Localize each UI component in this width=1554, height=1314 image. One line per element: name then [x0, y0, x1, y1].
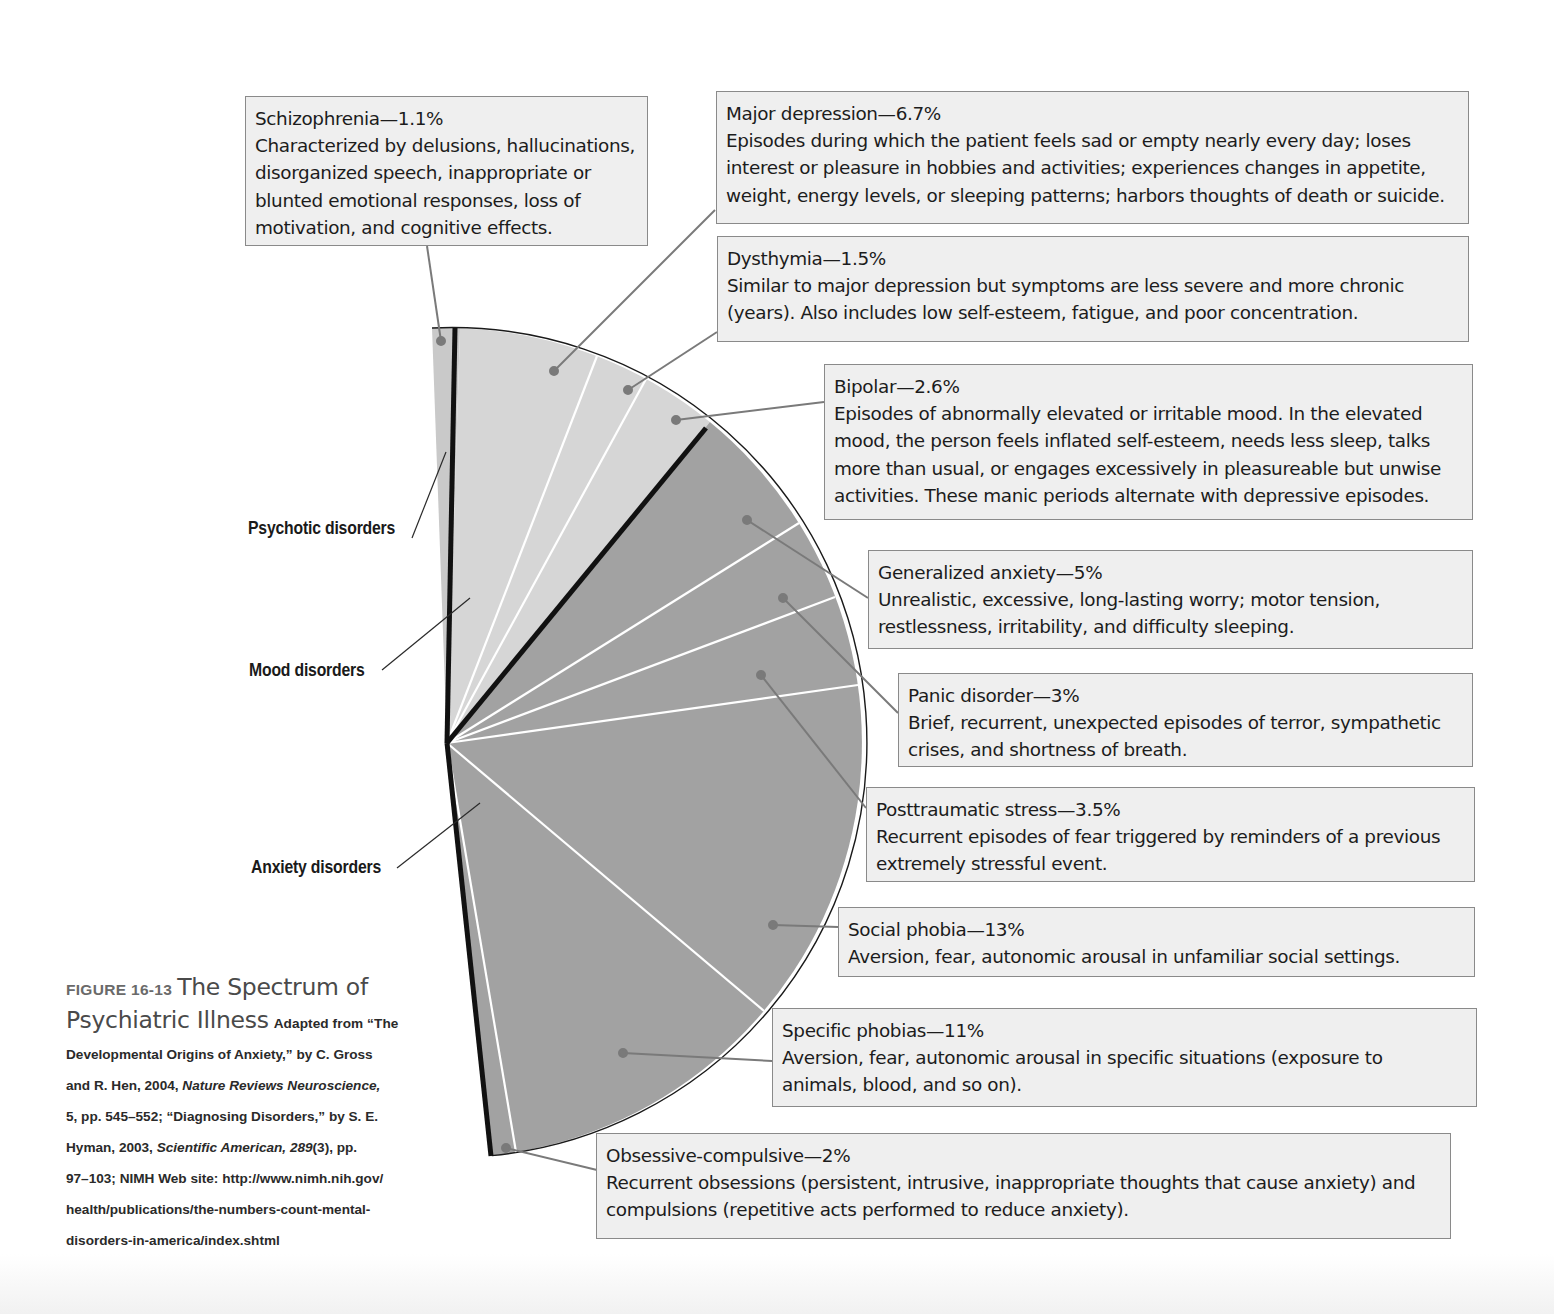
callout-description: Aversion, fear, autonomic arousal in unf… [848, 943, 1464, 970]
dot-generalized-anxiety [743, 516, 751, 524]
callout-title: Panic disorder—3% [908, 682, 1462, 709]
callout-specific-phobias: Specific phobias—11% Aversion, fear, aut… [772, 1008, 1477, 1107]
callout-description: Aversion, fear, autonomic arousal in spe… [782, 1044, 1466, 1098]
callout-title: Schizophrenia—1.1% [255, 105, 637, 132]
leader-dysthymia [628, 332, 717, 390]
dot-bipolar [672, 416, 680, 424]
source-line: health/publications/the-numbers-count-me… [66, 1194, 456, 1225]
callout-dysthymia: Dysthymia—1.5% Similar to major depressi… [717, 236, 1469, 342]
source-text: Hyman, 2003, [66, 1140, 157, 1155]
callout-description: Unrealistic, excessive, long-lasting wor… [878, 586, 1462, 640]
group-label-psychotic: Psychotic disorders [248, 518, 395, 539]
journal-name: Scientific American, 289 [157, 1140, 313, 1155]
source-line: 5, pp. 545–552; “Diagnosing Disorders,” … [66, 1101, 456, 1132]
callout-major-depression: Major depression—6.7% Episodes during wh… [716, 91, 1469, 224]
figure-number: FIGURE 16-13 [66, 981, 172, 998]
leader-ocd [506, 1148, 597, 1170]
callout-description: Recurrent episodes of fear triggered by … [876, 823, 1464, 877]
figure-title-part1: The Spectrum of [177, 973, 368, 1001]
callout-description: Episodes of abnormally elevated or irrit… [834, 400, 1462, 509]
dot-panic [779, 594, 787, 602]
source-text: (3), pp. [313, 1140, 358, 1155]
source-line: and R. Hen, 2004, Nature Reviews Neurosc… [66, 1070, 456, 1101]
dot-social-phobia [769, 921, 777, 929]
callout-social-phobia: Social phobia—13% Aversion, fear, autono… [838, 907, 1475, 977]
callout-posttraumatic-stress: Posttraumatic stress—3.5% Recurrent epis… [866, 787, 1475, 882]
callout-schizophrenia: Schizophrenia—1.1% Characterized by delu… [245, 96, 648, 246]
callout-title: Major depression—6.7% [726, 100, 1458, 127]
dot-specific-phobias [619, 1049, 627, 1057]
callout-description: Similar to major depression but symptoms… [727, 272, 1458, 326]
source-line: disorders-in-america/index.shtml [66, 1225, 456, 1256]
leader-schizophrenia [427, 246, 441, 341]
callout-title: Specific phobias—11% [782, 1017, 1466, 1044]
callout-generalized-anxiety: Generalized anxiety—5% Unrealistic, exce… [868, 550, 1473, 649]
callout-description: Brief, recurrent, unexpected episodes of… [908, 709, 1462, 763]
callout-title: Dysthymia—1.5% [727, 245, 1458, 272]
dot-major-depression [550, 367, 558, 375]
callout-obsessive-compulsive: Obsessive-compulsive—2% Recurrent obsess… [596, 1133, 1451, 1239]
figure-title-part2: Psychiatric Illness [66, 1006, 269, 1034]
source-line: Developmental Origins of Anxiety,” by C.… [66, 1039, 456, 1070]
callout-description: Recurrent obsessions (persistent, intrus… [606, 1169, 1440, 1223]
callout-bipolar: Bipolar—2.6% Episodes of abnormally elev… [824, 364, 1473, 520]
callout-panic-disorder: Panic disorder—3% Brief, recurrent, unex… [898, 673, 1473, 767]
callout-title: Generalized anxiety—5% [878, 559, 1462, 586]
source-line: 97–103; NIMH Web site: http://www.nimh.n… [66, 1163, 456, 1194]
dot-ptsd [757, 671, 765, 679]
callout-title: Social phobia—13% [848, 916, 1464, 943]
group-label-anxiety: Anxiety disorders [251, 857, 381, 878]
callout-title: Bipolar—2.6% [834, 373, 1462, 400]
journal-name: Nature Reviews Neuroscience, [182, 1078, 380, 1093]
dot-ocd [502, 1144, 510, 1152]
callout-title: Obsessive-compulsive—2% [606, 1142, 1440, 1169]
source-line: Hyman, 2003, Scientific American, 289(3)… [66, 1132, 456, 1163]
source-text: Adapted from “The [274, 1016, 399, 1031]
callout-description: Episodes during which the patient feels … [726, 127, 1458, 209]
dot-dysthymia [624, 386, 632, 394]
group-label-mood: Mood disorders [249, 660, 365, 681]
source-text: and R. Hen, 2004, [66, 1078, 182, 1093]
callout-title: Posttraumatic stress—3.5% [876, 796, 1464, 823]
figure-caption: FIGURE 16-13 The Spectrum of Psychiatric… [66, 972, 456, 1256]
leader-bipolar [676, 402, 824, 420]
dot-schizophrenia [437, 337, 445, 345]
callout-description: Characterized by delusions, hallucinatio… [255, 132, 637, 241]
